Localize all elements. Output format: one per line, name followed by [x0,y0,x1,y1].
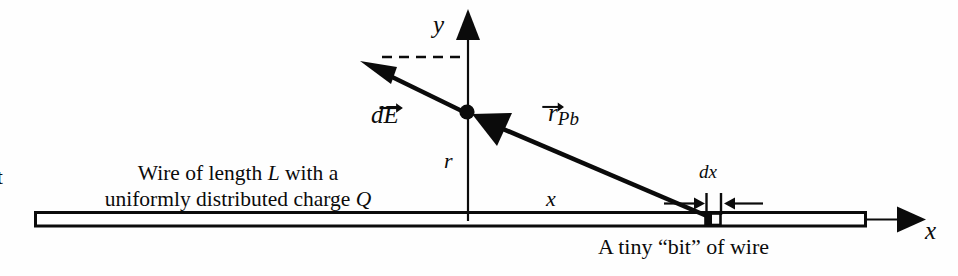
wire-caption-line-1-text: Wire of length L with a [138,161,338,185]
math-symbol-l: L [268,161,280,185]
wire-caption: Wire of length L with a uniformly distri… [88,160,388,212]
charge-element-caption: A tiny “bit” of wire [598,236,769,258]
dx-right-arrowhead [724,198,735,210]
dE-vector-label: d E [371,102,399,127]
y-axis-label: y [433,12,444,37]
field-point-dot [459,104,474,119]
dE-vector-arrowhead [360,61,397,84]
distance-x-label: x [546,188,556,210]
wire-rectangle [36,213,866,227]
rPb-vector-label: rPb [548,100,579,128]
y-axis-arrowhead [456,9,480,40]
diagram-canvas [0,0,958,276]
rPb-base-symbol: r [548,99,558,126]
clipped-margin-text: t [0,167,3,188]
math-symbol-q: Q [356,187,372,211]
rPb-symbol-with-accent: r [548,100,558,125]
charge-element-bit-shade [706,214,712,225]
rPb-subscript: Pb [558,108,579,129]
wire-caption-line-2-text: uniformly distributed charge Q [105,187,372,211]
distance-r-label: r [444,150,453,172]
x-axis-label: x [925,218,936,243]
rPb-vector-shaft [496,126,714,219]
dx-left-arrowhead [694,198,705,210]
dE-field-symbol: E [384,101,399,128]
dE-symbol-with-accent: E [384,102,399,127]
dx-element-label: dx [699,162,717,181]
wire-caption-line-2: uniformly distributed charge Q [88,186,388,212]
wire-caption-line-1: Wire of length L with a [88,160,388,186]
physics-diagram-figure: t y x d E rPb r x dx Wire of length L wi… [0,0,958,276]
dE-vector-shaft [388,75,466,113]
dE-differential-d: d [371,101,384,128]
x-axis-arrowhead [897,207,926,233]
